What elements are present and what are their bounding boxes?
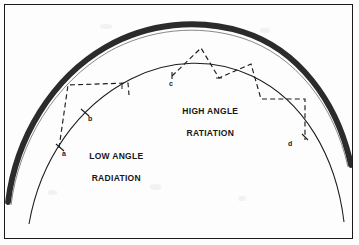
point-label-d: d (288, 140, 292, 147)
high-angle-label-line2: RATIATION (186, 128, 234, 138)
high-angle-label-line1: HIGH ANGLE (182, 106, 238, 116)
low-angle-label-line1: LOW ANGLE (89, 151, 143, 161)
figure-root: HIGH ANGLE RATIATION LOW ANGLE RADIATION… (0, 0, 359, 245)
point-label-a: a (62, 150, 66, 157)
point-label-b: b (88, 115, 92, 122)
low-angle-ray-path (59, 83, 129, 148)
low-angle-radiation-label: LOW ANGLE RADIATION (76, 140, 146, 195)
point-label-c: c (169, 80, 173, 87)
low-angle-label-line2: RADIATION (92, 173, 141, 183)
high-angle-radiation-label: HIGH ANGLE RATIATION (168, 95, 242, 150)
